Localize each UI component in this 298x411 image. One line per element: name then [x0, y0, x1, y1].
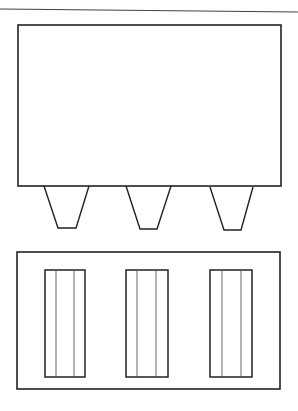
slots-group [45, 270, 252, 377]
top-rule [0, 9, 298, 12]
protrusion-3 [210, 187, 253, 230]
diagram-canvas [0, 0, 298, 411]
upper-body [18, 25, 281, 186]
protrusion-2 [126, 186, 171, 229]
slot-1 [45, 270, 85, 377]
protrusions-group [44, 186, 253, 230]
slot-3 [210, 270, 252, 377]
protrusion-1 [44, 186, 89, 228]
slot-2 [126, 270, 168, 377]
